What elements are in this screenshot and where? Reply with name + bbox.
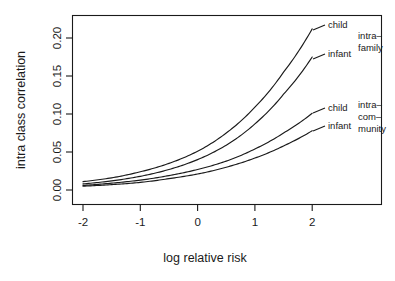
curve-intra-community-infant	[83, 131, 312, 186]
annotation-family-child: child	[328, 19, 348, 30]
x-tick-label-2: 2	[309, 216, 315, 228]
annotation-family-infant: infant	[328, 48, 352, 59]
group-label-community-line2: com–	[358, 111, 382, 122]
annotations-group: child infant child infant intra– family …	[328, 19, 386, 134]
y-axis-tick-labels: 0.20 0.15 0.10 0.05 0.00	[51, 27, 63, 201]
x-axis-tick-labels: -2 -1 0 1 2	[78, 216, 316, 228]
intra-class-correlation-line-chart: 0.20 0.15 0.10 0.05 0.00 intra class cor…	[0, 0, 395, 281]
y-axis-ticks	[66, 38, 73, 190]
y-tick-label-0.05: 0.05	[51, 141, 63, 163]
y-tick-label-0.15: 0.15	[51, 65, 63, 87]
chart-figure: 0.20 0.15 0.10 0.05 0.00 intra class cor…	[0, 0, 395, 281]
leader-community-infant	[313, 126, 325, 131]
group-label-community-line3: munity	[358, 123, 386, 134]
y-tick-label-0.00: 0.00	[51, 179, 63, 201]
y-axis-title: intra class correlation	[14, 51, 28, 169]
annotation-community-infant: infant	[328, 120, 352, 131]
annotation-community-child: child	[328, 102, 348, 113]
y-tick-label-0.20: 0.20	[51, 27, 63, 49]
group-label-family-line2: family	[358, 42, 383, 53]
curve-intra-family-child	[83, 29, 312, 182]
leader-family-child	[313, 25, 325, 30]
x-tick-label-1: 1	[252, 216, 258, 228]
y-tick-label-0.10: 0.10	[51, 103, 63, 125]
leader-family-infant	[313, 54, 325, 59]
x-axis-title: log relative risk	[163, 251, 247, 265]
x-tick-label--2: -2	[78, 216, 88, 228]
curve-group	[83, 29, 312, 186]
x-tick-label--1: -1	[135, 216, 145, 228]
curve-intra-family-infant	[83, 57, 312, 184]
x-axis-ticks	[83, 205, 312, 212]
annotation-leader-lines	[313, 25, 325, 131]
x-tick-label-0: 0	[194, 216, 200, 228]
group-label-community-line1: intra–	[358, 99, 382, 110]
group-label-family-line1: intra–	[358, 30, 382, 41]
leader-community-child	[313, 108, 325, 113]
